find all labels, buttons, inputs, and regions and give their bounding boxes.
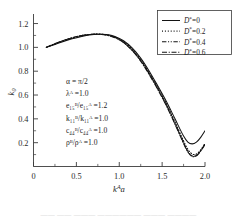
legend-label-0: D*=0 bbox=[183, 16, 200, 26]
parameter-annotations: α = π/2λᴬ =1.0e₁₅ᴮ/e₁₅ᴬ =1.2k₁₁ᴮ/k₁₁ᴬ =1… bbox=[66, 77, 108, 147]
x-axis-tick-labels: 00.51.01.52.0 bbox=[31, 172, 210, 181]
x-tick-label: 2.0 bbox=[200, 172, 210, 181]
y-axis-tick-labels: 0.20.40.60.81.01.2 bbox=[18, 20, 29, 148]
svg-text:k0: k0 bbox=[6, 89, 17, 96]
y-tick-label: 0.6 bbox=[18, 91, 28, 100]
y-tick-label: 0.2 bbox=[18, 139, 28, 148]
x-axis-ticks bbox=[34, 162, 206, 167]
y-tick-label: 0.4 bbox=[18, 115, 29, 124]
x-tick-label: 1.5 bbox=[157, 172, 167, 181]
legend: D*=0D*=0.2D*=0.4D*=0.6 bbox=[158, 11, 232, 58]
y-axis-ticks bbox=[34, 24, 39, 155]
y-tick-label: 1.2 bbox=[18, 20, 28, 29]
x-tick-label: 0.5 bbox=[71, 172, 81, 181]
legend-label-3: D*=0.6 bbox=[183, 48, 206, 58]
page-caption-strip: —— —— ——— —————— ——— ———— bbox=[0, 204, 237, 217]
param-k11-ratio: k₁₁ᴮ/k₁₁ᴬ =1.0 bbox=[66, 114, 108, 123]
legend-label-2: D*=0.4 bbox=[183, 37, 206, 47]
y-axis-title-sub: 0 bbox=[11, 89, 17, 92]
param-rho-ratio: ρᴮ/ρᴬ =1.0 bbox=[66, 138, 98, 147]
y-tick-label: 1.0 bbox=[18, 43, 28, 52]
x-axis-title-tail: a bbox=[121, 184, 125, 194]
param-alpha: α = π/2 bbox=[66, 77, 88, 86]
chart-plot-area: 0.20.40.60.81.01.2 00.51.01.52.0 k0 kAa … bbox=[0, 0, 237, 217]
svg-text:kAa: kAa bbox=[113, 184, 125, 194]
legend-label-1: D*=0.2 bbox=[183, 26, 206, 36]
param-c44-ratio: c₄₄ᴮ/c₄₄ᴬ =1.0 bbox=[66, 126, 107, 135]
y-axis-title: k0 bbox=[6, 89, 17, 96]
x-axis-title: kAa bbox=[113, 184, 125, 194]
param-lambda-A: λᴬ =1.0 bbox=[66, 89, 89, 98]
y-tick-label: 0.8 bbox=[18, 67, 28, 76]
param-e15-ratio: e₁₅ᴮ/e₁₅ᴬ =1.2 bbox=[66, 101, 107, 110]
figure-container: 0.20.40.60.81.01.2 00.51.01.52.0 k0 kAa … bbox=[0, 0, 237, 217]
x-tick-label: 0 bbox=[31, 172, 35, 181]
x-tick-label: 1.0 bbox=[114, 172, 124, 181]
